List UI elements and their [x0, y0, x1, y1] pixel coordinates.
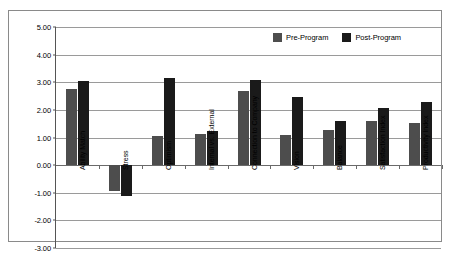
gridline-3.00	[56, 82, 441, 83]
category-tick	[99, 165, 100, 169]
bar-pre-program-balance	[323, 130, 334, 165]
y-tick-mark	[53, 109, 56, 110]
plot-area: Ability MatchStressOptimismInternal vs. …	[55, 27, 441, 248]
category-tick	[270, 165, 271, 169]
bar-pre-program-vision	[280, 135, 291, 165]
category-label-balance: Balance	[336, 145, 343, 170]
y-tick-mark	[53, 27, 56, 28]
y-tick-mark	[53, 54, 56, 55]
y-tick-mark	[53, 82, 56, 83]
legend-swatch-pre	[273, 33, 282, 42]
category-label-vision: Vision	[293, 151, 300, 170]
category-tick	[399, 165, 400, 169]
legend-item-pre-program: Pre-Program	[273, 33, 328, 42]
category-label-optimism: Optimism	[165, 141, 172, 170]
gridline--2.00	[56, 220, 441, 221]
category-label-connection-to-company: Connection to Company	[251, 96, 258, 170]
gridline-4.00	[56, 55, 441, 56]
legend-swatch-post	[342, 33, 351, 42]
y-tick-mark	[53, 165, 56, 166]
y-tick-label: -1.00	[34, 188, 51, 197]
legend-label: Pre-Program	[286, 33, 328, 42]
category-label-productivity-index: Productivity Index	[422, 116, 429, 170]
gridline-5.00	[56, 27, 441, 28]
y-tick-mark	[53, 192, 56, 193]
y-tick-label: 0.00	[37, 161, 51, 170]
category-tick	[228, 165, 229, 169]
category-tick	[442, 165, 443, 169]
y-tick-mark	[53, 137, 56, 138]
chart-frame: Ability MatchStressOptimismInternal vs. …	[8, 10, 442, 242]
y-tick-label: -2.00	[34, 216, 51, 225]
category-label-ability-match: Ability Match	[79, 131, 86, 170]
y-tick-mark	[53, 220, 56, 221]
chart-legend: Pre-ProgramPost-Program	[273, 33, 401, 42]
y-tick-mark	[53, 248, 56, 249]
legend-label: Post-Program	[355, 33, 401, 42]
y-tick-label: 2.00	[37, 105, 51, 114]
category-label-satisfaction-index: Satisfaction Index	[379, 116, 386, 170]
category-label-stress: Stress	[122, 151, 129, 171]
bar-pre-program-stress	[109, 165, 120, 190]
gridline--1.00	[56, 193, 441, 194]
legend-item-post-program: Post-Program	[342, 33, 401, 42]
gridline--3.00	[56, 248, 441, 249]
category-tick	[356, 165, 357, 169]
y-tick-label: 4.00	[37, 50, 51, 59]
category-tick	[142, 165, 143, 169]
category-tick	[313, 165, 314, 169]
bar-pre-program-ability-match	[66, 89, 77, 165]
y-tick-label: 3.00	[37, 78, 51, 87]
bar-chart: Ability MatchStressOptimismInternal vs. …	[0, 0, 450, 258]
category-tick	[185, 165, 186, 169]
bar-pre-program-connection-to-company	[238, 91, 249, 165]
y-tick-label: 5.00	[37, 23, 51, 32]
bar-pre-program-optimism	[152, 136, 163, 165]
category-label-internal-vs-external: Internal vs. External	[208, 109, 215, 170]
bar-pre-program-satisfaction-index	[366, 121, 377, 165]
y-tick-label: -3.00	[34, 244, 51, 253]
bar-pre-program-internal-vs-external	[195, 134, 206, 165]
bar-pre-program-productivity-index	[409, 123, 420, 165]
y-tick-label: 1.00	[37, 133, 51, 142]
